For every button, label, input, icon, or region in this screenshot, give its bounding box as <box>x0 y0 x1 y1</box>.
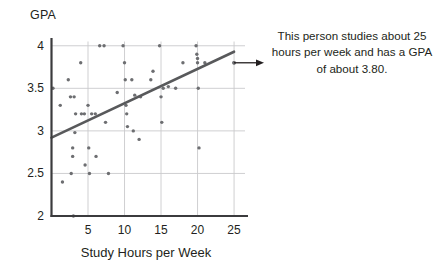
data-point <box>158 44 161 47</box>
data-point <box>125 112 128 115</box>
data-point <box>124 78 127 81</box>
data-point <box>94 155 97 158</box>
data-point <box>86 104 89 107</box>
data-point <box>167 85 170 88</box>
data-point <box>70 172 73 175</box>
data-point <box>87 146 90 149</box>
scatter-plot-figure: GPA 22.533.54 510152025 Study Hours per … <box>0 0 441 274</box>
y-tick-label: 2.5 <box>12 166 44 180</box>
data-point <box>197 146 200 149</box>
gridlines <box>52 42 246 217</box>
data-point <box>181 61 184 64</box>
data-point <box>102 44 105 47</box>
data-point <box>98 44 101 47</box>
data-point <box>137 138 140 141</box>
y-tick-label: 3.5 <box>12 81 44 95</box>
data-point <box>61 180 64 183</box>
data-point <box>197 87 200 90</box>
trend-line <box>52 52 235 138</box>
data-point <box>174 87 177 90</box>
data-point <box>104 121 107 124</box>
data-point <box>94 112 97 115</box>
data-point <box>133 93 136 96</box>
data-point <box>79 61 82 64</box>
data-point <box>195 53 198 56</box>
data-point <box>194 44 197 47</box>
data-point <box>90 112 93 115</box>
data-point <box>59 104 62 107</box>
x-axis-title: Study Hours per Week <box>51 245 241 260</box>
data-point <box>74 112 77 115</box>
data-point <box>151 70 154 73</box>
data-point <box>196 57 199 60</box>
data-point <box>159 95 162 98</box>
x-tick-label: 10 <box>118 223 131 237</box>
data-point <box>160 121 163 124</box>
annotation-arrow-icon <box>234 59 264 66</box>
chart-region: GPA 22.533.54 510152025 Study Hours per … <box>0 0 270 274</box>
data-point <box>107 172 110 175</box>
data-point <box>123 61 126 64</box>
data-point <box>162 87 165 90</box>
data-point <box>67 78 70 81</box>
data-point <box>126 125 129 128</box>
y-tick-label: 4 <box>12 39 44 53</box>
data-point <box>83 112 86 115</box>
y-tick-label: 2 <box>12 209 44 223</box>
data-point <box>132 129 135 132</box>
data-point <box>149 78 152 81</box>
data-point <box>73 131 76 134</box>
data-point <box>83 163 86 166</box>
y-tick-label: 3 <box>12 124 44 138</box>
x-tick-label: 5 <box>85 223 92 237</box>
data-point <box>69 95 72 98</box>
data-point <box>130 78 133 81</box>
data-point <box>72 95 75 98</box>
callout-annotation: This person studies about 25 hours per w… <box>266 28 438 77</box>
data-point <box>196 61 199 64</box>
x-tick-label: 15 <box>154 223 167 237</box>
data-point <box>71 146 74 149</box>
data-point <box>80 112 83 115</box>
data-point <box>116 91 119 94</box>
data-point <box>121 44 124 47</box>
x-tick-label: 20 <box>191 223 204 237</box>
data-point <box>88 172 91 175</box>
x-tick-label: 25 <box>227 223 240 237</box>
data-point <box>71 155 74 158</box>
